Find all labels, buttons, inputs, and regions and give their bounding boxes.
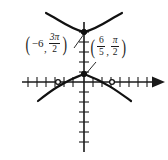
label-right-x-numerator: 6 bbox=[98, 36, 105, 46]
close-paren: ) bbox=[63, 35, 68, 53]
point-label-left: ( −6 , 3π 2 ) bbox=[24, 33, 69, 55]
label-left-x-value: −6 bbox=[31, 38, 44, 49]
label-right-y-fraction: π 2 bbox=[110, 36, 120, 58]
label-right-y-numerator: π bbox=[112, 36, 119, 46]
graph-figure: ( −6 , 3π 2 ) ( 6 5 , π 2 ) bbox=[0, 0, 168, 160]
coordinate-plane bbox=[0, 0, 168, 160]
close-paren: ) bbox=[121, 38, 126, 56]
point-filled-lower-vertex bbox=[81, 71, 86, 76]
label-left-denominator: 2 bbox=[51, 45, 58, 55]
point-open-left bbox=[56, 80, 61, 85]
open-paren: ( bbox=[25, 35, 30, 53]
x-axis-arrow-right-icon bbox=[152, 77, 165, 88]
label-left-numerator: 3π bbox=[49, 33, 61, 43]
leader-line-left-label bbox=[74, 34, 84, 48]
label-right-x-denominator: 5 bbox=[98, 48, 105, 58]
point-open-right bbox=[110, 80, 115, 85]
y-axis-group bbox=[79, 22, 89, 152]
label-right-x-fraction: 6 5 bbox=[96, 36, 106, 58]
point-label-right: ( 6 5 , π 2 ) bbox=[89, 36, 127, 58]
label-left-fraction: 3π 2 bbox=[48, 33, 62, 55]
label-right-y-denominator: 2 bbox=[112, 48, 119, 58]
point-filled-upper-vertex bbox=[81, 29, 86, 34]
open-paren: ( bbox=[90, 38, 95, 56]
